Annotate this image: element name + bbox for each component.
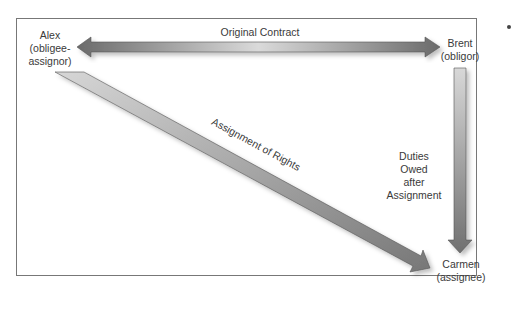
duties-arrow	[448, 68, 472, 253]
original-contract-arrow	[77, 37, 440, 57]
alex-label: Alex (obligee- assignor)	[20, 29, 80, 68]
brent-label: Brent (obligor)	[436, 37, 484, 63]
duties-label: Duties Owed after Assignment	[382, 150, 446, 202]
assignment-of-rights-arrow	[55, 72, 430, 272]
carmen-label: Carmen (assignee)	[430, 258, 492, 284]
original-contract-label: Original Contract	[200, 26, 320, 39]
